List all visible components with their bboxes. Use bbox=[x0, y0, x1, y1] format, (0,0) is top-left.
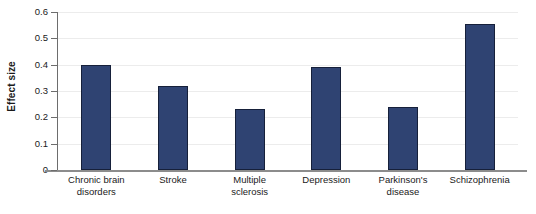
y-axis-tick-label: 0.6 bbox=[18, 7, 48, 17]
y-axis-tick bbox=[51, 91, 57, 92]
x-axis-category-label-line: disease bbox=[365, 186, 442, 198]
x-axis-category-label: Chronic braindisorders bbox=[58, 174, 135, 197]
y-axis-tick bbox=[51, 117, 57, 118]
gridline bbox=[58, 91, 518, 92]
x-axis-category-label: Depression bbox=[288, 174, 365, 186]
x-axis-baseline bbox=[45, 170, 527, 172]
y-axis-tick-label: 0.4 bbox=[18, 60, 48, 70]
x-axis-category-label-line: Parkinson's bbox=[365, 174, 442, 186]
y-axis-tick-label: 0.5 bbox=[18, 34, 48, 44]
gridline bbox=[58, 12, 518, 13]
x-axis-category-label: Multiplesclerosis bbox=[211, 174, 288, 197]
x-axis-category-label-line: disorders bbox=[58, 186, 135, 198]
y-axis-tick bbox=[51, 38, 57, 39]
x-axis-category-label-line: Schizophrenia bbox=[441, 174, 518, 186]
bar-chart: Effect size 00.10.20.30.40.50.6 Chronic … bbox=[0, 0, 536, 214]
bar bbox=[81, 65, 111, 170]
x-axis-category-labels: Chronic braindisordersStrokeMultiplescle… bbox=[58, 174, 518, 214]
x-axis-category-label: Stroke bbox=[135, 174, 212, 186]
x-axis-category-label-line: Chronic brain bbox=[58, 174, 135, 186]
bar bbox=[311, 67, 341, 170]
x-axis-category-label: Schizophrenia bbox=[441, 174, 518, 186]
x-axis-category-label-line: Stroke bbox=[135, 174, 212, 186]
y-axis-tick bbox=[51, 12, 57, 13]
y-axis-tick bbox=[51, 170, 57, 171]
bar bbox=[465, 24, 495, 170]
y-axis-tick-label: 0.1 bbox=[18, 139, 48, 149]
gridline bbox=[58, 144, 518, 145]
y-axis-tick-label: 0 bbox=[18, 165, 48, 175]
plot-area bbox=[58, 12, 518, 170]
bar bbox=[388, 107, 418, 170]
y-axis-tick bbox=[51, 65, 57, 66]
x-axis-category-label-line: Multiple bbox=[211, 174, 288, 186]
y-axis-tick-label: 0.2 bbox=[18, 113, 48, 123]
y-axis-spine bbox=[57, 12, 58, 171]
gridline bbox=[58, 65, 518, 66]
y-axis-tick-label: 0.3 bbox=[18, 86, 48, 96]
x-axis-category-label: Parkinson'sdisease bbox=[365, 174, 442, 197]
bar bbox=[158, 86, 188, 170]
y-axis-tick-labels: 00.10.20.30.40.50.6 bbox=[14, 0, 48, 214]
gridline bbox=[58, 117, 518, 118]
x-axis-category-label-line: Depression bbox=[288, 174, 365, 186]
bar bbox=[235, 109, 265, 170]
x-axis-category-label-line: sclerosis bbox=[211, 186, 288, 198]
gridline bbox=[58, 38, 518, 39]
y-axis-tick bbox=[51, 144, 57, 145]
